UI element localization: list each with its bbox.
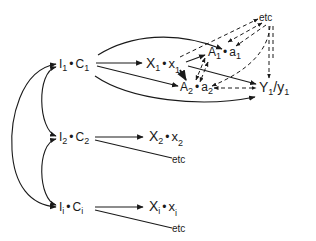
edge-i1-a1-curved (98, 37, 222, 55)
arc-i2-ii (42, 139, 56, 205)
svg-text:X2•x2: X2•x2 (149, 128, 183, 148)
edge-x1-a1 (186, 55, 205, 62)
svg-text:Ii•Ci: Ii•Ci (59, 200, 83, 216)
node-i1-c1: I1•C1 (59, 57, 89, 73)
node-x1: X1•x1 (146, 55, 180, 75)
node-ii-ci: Ii•Ci (59, 200, 83, 216)
etc-label-top: etc (259, 12, 272, 23)
node-a1: A1•a1 (208, 45, 241, 61)
etc-label-rowi: etc (172, 223, 185, 234)
lower-rows-edges (95, 137, 172, 228)
node-y1: Y1/y1 (259, 79, 289, 97)
svg-text:A1•a1: A1•a1 (208, 45, 241, 61)
svg-text:Y1/y1: Y1/y1 (259, 79, 289, 97)
edge-x1-a2 (180, 70, 186, 80)
node-x2: X2•x2 (149, 128, 183, 148)
node-a2: A2•a2 (180, 80, 213, 96)
svg-text:I2•C2: I2•C2 (59, 130, 89, 146)
etc-label-row2: etc (172, 154, 185, 165)
node-xi: Xi•xi (149, 198, 177, 218)
svg-text:A2•a2: A2•a2 (180, 80, 213, 96)
correlation-arcs (12, 64, 56, 207)
edge-i1-y1-curved (95, 76, 255, 102)
path-diagram: I1•C1 X1•x1 A1•a1 A2•a2 Y1/y1 etc I2•C2 … (0, 0, 316, 241)
arc-i1-ii (12, 64, 56, 207)
svg-text:I1•C1: I1•C1 (59, 57, 89, 73)
arc-i1-i2 (42, 67, 56, 136)
node-i2-c2: I2•C2 (59, 130, 89, 146)
edge-a1-a2-dashed-2 (200, 62, 208, 82)
edge-ii-etc (95, 210, 172, 228)
svg-text:Xi•xi: Xi•xi (149, 198, 177, 218)
svg-text:X1•x1: X1•x1 (146, 55, 180, 75)
